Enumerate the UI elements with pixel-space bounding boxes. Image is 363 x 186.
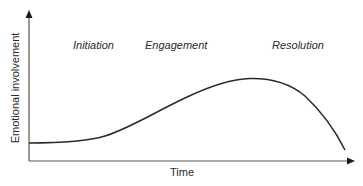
involvement-curve: [29, 78, 345, 150]
y-axis-arrow-icon: [26, 10, 33, 18]
emotional-involvement-diagram: Initiation Engagement Resolution Time Em…: [0, 0, 363, 186]
y-axis: [26, 10, 33, 161]
phase-label-initiation: Initiation: [73, 39, 114, 51]
x-axis-arrow-icon: [347, 158, 355, 165]
phase-label-resolution: Resolution: [272, 39, 324, 51]
x-axis: [29, 158, 355, 165]
y-axis-label: Emotional involvement: [9, 33, 21, 144]
x-axis-label: Time: [170, 166, 194, 178]
phase-label-engagement: Engagement: [145, 39, 208, 51]
